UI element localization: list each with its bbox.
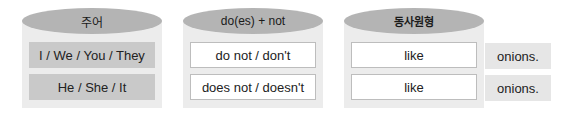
column-header-negation: do(es) + not — [183, 8, 323, 34]
subject-column: 주어 I / We / You / They He / She / It — [22, 8, 162, 108]
base-verb-column: 동사원형 like like — [344, 8, 484, 108]
column-header-subject: 주어 — [22, 8, 162, 34]
object-cell-2: onions. — [485, 75, 551, 101]
negation-do-cell: do not / don't — [190, 42, 316, 68]
negation-column: do(es) + not do not / don't does not / d… — [183, 8, 323, 108]
negation-does-cell: does not / doesn't — [190, 74, 316, 100]
verb-cell-2: like — [351, 74, 477, 100]
column-header-base-verb: 동사원형 — [344, 8, 484, 34]
subject-plural-cell: I / We / You / They — [29, 42, 155, 68]
object-cell-1: onions. — [485, 43, 551, 69]
verb-cell-1: like — [351, 42, 477, 68]
subject-singular-cell: He / She / It — [29, 74, 155, 100]
